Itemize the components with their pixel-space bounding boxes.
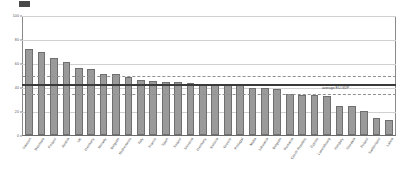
- x-label-slot: Hungary: [335, 137, 347, 169]
- bar[interactable]: [286, 94, 294, 135]
- bar[interactable]: [162, 82, 170, 135]
- x-label-slot: Spain: [160, 137, 172, 169]
- bar[interactable]: [100, 74, 108, 135]
- bar[interactable]: [273, 89, 281, 135]
- bar[interactable]: [360, 111, 368, 135]
- y-tick-label: 100: [13, 14, 19, 18]
- x-label-slot: Italy: [135, 137, 147, 169]
- average-eu-gdp-line-label: average EU-GDP: [322, 86, 349, 90]
- x-axis-tick-label: Italy: [138, 137, 145, 145]
- bar[interactable]: [323, 96, 331, 135]
- x-label-slot: Czech Republic: [297, 137, 309, 169]
- bar[interactable]: [137, 80, 145, 135]
- y-tick-label: 0: [17, 134, 19, 138]
- x-axis-tick-label: Slovakia: [346, 137, 357, 151]
- bar[interactable]: [348, 106, 356, 136]
- bar[interactable]: [75, 68, 83, 135]
- x-axis-tick-label: Estonia: [210, 137, 220, 149]
- x-label-slot: Slovakia: [347, 137, 359, 169]
- bar[interactable]: [373, 118, 381, 135]
- x-label-slot: Estonia: [210, 137, 222, 169]
- x-label-slot: France: [148, 137, 160, 169]
- x-axis-labels: SwedenDenmarkFinlandAustriaUKGermanyNorw…: [23, 137, 397, 169]
- x-axis-tick-label: France: [148, 137, 158, 149]
- x-axis-tick-label: Slovenia: [184, 137, 195, 151]
- bar[interactable]: [211, 84, 219, 135]
- bar[interactable]: [174, 82, 182, 135]
- x-label-slot: Austria: [60, 137, 72, 169]
- x-label-slot: UK: [73, 137, 85, 169]
- x-axis-tick-label: Latvia: [385, 137, 394, 147]
- y-tick-label: 40: [15, 86, 19, 90]
- x-axis-tick-label: Spain: [161, 137, 169, 147]
- lower-band-line: [22, 94, 396, 95]
- x-axis-tick-label: Portugal: [234, 137, 245, 150]
- x-axis-tick-label: Hungary: [333, 137, 344, 151]
- x-label-slot: Lithuania: [260, 137, 272, 169]
- x-label-slot: Denmark: [35, 137, 47, 169]
- x-label-slot: Luxembourg: [322, 137, 334, 169]
- bar[interactable]: [25, 49, 33, 135]
- y-tick-label: 60: [15, 62, 19, 66]
- x-label-slot: Sweden: [23, 137, 35, 169]
- chart-figure: 020406080100 average EU-GDP SwedenDenmar…: [0, 0, 398, 169]
- x-axis-tick-label: Ireland: [173, 137, 183, 148]
- bar[interactable]: [311, 95, 319, 135]
- x-axis-tick-label: Greece: [222, 137, 232, 149]
- x-label-slot: Portugal: [235, 137, 247, 169]
- x-label-slot: Netherlands: [123, 137, 135, 169]
- y-tick-mark: [20, 40, 22, 41]
- bar[interactable]: [199, 84, 207, 135]
- x-label-slot: Latvia: [385, 137, 397, 169]
- upper-band-line: [22, 76, 396, 77]
- bar[interactable]: [50, 58, 58, 135]
- x-axis-tick-label: Finland: [48, 137, 58, 149]
- x-label-slot: Germany: [85, 137, 97, 169]
- plot-area: 020406080100 average EU-GDP: [22, 16, 396, 136]
- x-axis-tick-label: Sweden: [22, 137, 33, 150]
- x-axis-tick-label: Denmark: [34, 137, 45, 151]
- y-tick-label: 80: [15, 38, 19, 42]
- x-axis-tick-label: Poland: [360, 137, 370, 149]
- x-axis-tick-label: Lithuania: [258, 137, 270, 151]
- x-label-slot: Finland: [48, 137, 60, 169]
- bar[interactable]: [224, 84, 232, 135]
- x-label-slot: Germany: [198, 137, 210, 169]
- x-label-slot: Ireland: [173, 137, 185, 169]
- bar[interactable]: [236, 85, 244, 135]
- y-tick-mark: [20, 112, 22, 113]
- x-axis-tick-label: Belgium: [271, 137, 282, 150]
- x-axis-tick-label: Cyprus: [310, 137, 320, 149]
- x-label-slot: Malta: [247, 137, 259, 169]
- y-tick-mark: [20, 16, 22, 17]
- x-label-slot: Switzerland: [372, 137, 384, 169]
- y-tick-label: 20: [15, 110, 19, 114]
- y-tick-mark: [20, 88, 22, 89]
- x-label-slot: Greece: [223, 137, 235, 169]
- x-axis-tick-label: Malta: [249, 137, 257, 147]
- bar[interactable]: [336, 106, 344, 136]
- bar[interactable]: [112, 74, 120, 135]
- page-corner-mark: [19, 1, 30, 7]
- bar[interactable]: [149, 81, 157, 135]
- x-axis-tick-label: UK: [76, 137, 82, 143]
- x-axis-tick-label: Romania: [283, 137, 294, 151]
- x-axis-tick-label: Belgium: [109, 137, 120, 150]
- x-axis-tick-label: Germany: [196, 137, 208, 151]
- bar[interactable]: [385, 120, 393, 135]
- x-axis-tick-label: Norway: [97, 137, 107, 149]
- x-axis-tick-label: Austria: [60, 137, 70, 149]
- y-tick-mark: [20, 64, 22, 65]
- x-label-slot: Slovenia: [185, 137, 197, 169]
- x-label-slot: Belgium: [272, 137, 284, 169]
- x-axis-tick-label: Germany: [83, 137, 95, 151]
- x-label-slot: Norway: [98, 137, 110, 169]
- bar[interactable]: [87, 69, 95, 135]
- y-tick-mark: [20, 136, 22, 137]
- bar[interactable]: [298, 95, 306, 135]
- bar[interactable]: [63, 62, 71, 135]
- bar[interactable]: [187, 83, 195, 135]
